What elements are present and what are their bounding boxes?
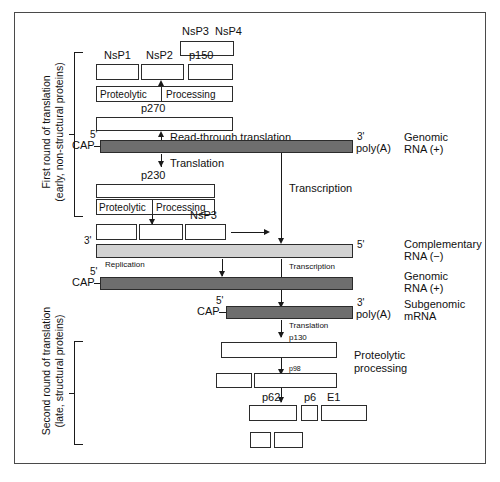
p150-label: p150 (189, 50, 213, 61)
genomic-rna-legend-line1: Genomic (404, 132, 448, 143)
second-round-label-line2: (late, structural proteins) (53, 283, 65, 459)
subgenomic-three-prime: 3' (357, 298, 364, 308)
to-transcription-arrow-shaft (231, 232, 265, 233)
e1-label: E1 (327, 392, 340, 403)
transcription-main-shaft (281, 153, 282, 242)
genomic-rna-legend-line2: RNA (+) (404, 144, 443, 155)
nsp3-lower-label: NsP3 (190, 210, 217, 221)
translation-label: Translation (170, 158, 224, 169)
proteolytic-processing-divider-upper (161, 86, 162, 102)
subgenomic-legend-line1: Subgenomic (404, 299, 465, 310)
p62-box (249, 405, 297, 421)
p6-box (301, 405, 318, 421)
first-round-label-line1: First round of translation (40, 48, 52, 216)
p230-box (96, 184, 215, 198)
nsp3-top-label: NsP3 (182, 26, 209, 37)
genomic-rna-plus-strand (100, 140, 353, 153)
transcription-main-label: Transcription (289, 183, 352, 194)
p98-box (254, 373, 337, 388)
genomic2-cap-label: CAP (72, 277, 95, 288)
lower-cleavage-box-nsp3 (185, 224, 226, 240)
genomic-cap-label: CAP (72, 140, 95, 151)
lower-cleavage-box-2 (139, 224, 183, 240)
genomic2-rna-legend-line2: RNA (+) (404, 283, 443, 294)
p230-label: p230 (141, 170, 165, 181)
p130-box (221, 342, 337, 358)
proteolytic-label-upper: Proteolytic (100, 90, 147, 100)
p150-box (188, 64, 233, 80)
p6-label: p6 (304, 392, 316, 403)
translation-lower-arrow-head (278, 332, 284, 338)
subgenomic-poly-a: poly(A) (356, 309, 391, 320)
nsp1-box (96, 64, 139, 80)
cleavage-small-box (216, 373, 252, 388)
first-round-bracket (74, 52, 83, 217)
nsp2-box (141, 64, 184, 80)
complementary-rna-minus-strand (96, 244, 353, 258)
readthrough-arrow-head (158, 131, 164, 137)
complementary-rna-legend-line1: Complementary (404, 239, 482, 250)
final-product-box-1 (250, 432, 271, 448)
subgenomic-cap-tick (219, 312, 226, 313)
p130-label: p130 (289, 334, 307, 342)
complementary-three-prime: 3' (84, 236, 91, 246)
genomic2-rna-legend-line1: Genomic (404, 271, 448, 282)
translation-arrow-head (158, 161, 164, 167)
subgenomic-cap-label: CAP (197, 306, 220, 317)
genomic-three-prime: 3' (357, 132, 364, 142)
second-round-bracket (74, 341, 83, 445)
subgenomic-mrna-strand (226, 306, 353, 319)
replication-label: Replication (105, 261, 145, 269)
first-round-label-line2: (early, non-structural proteins) (53, 48, 65, 216)
p270-label: p270 (141, 103, 165, 114)
translation-lower-label: Translation (289, 322, 328, 330)
subgenomic-legend-line2: mRNA (404, 311, 436, 322)
p62-label: p62 (262, 392, 280, 403)
to-transcription-arrow-head (264, 229, 270, 235)
nsp2-label: NsP2 (146, 50, 173, 61)
second-round-label-line1: Second round of translation (40, 283, 52, 459)
lower-cleavage-box-1 (96, 224, 137, 240)
complementary-rna-legend-line2: RNA (−) (404, 251, 443, 262)
proteolytic-processing-divider-lower (152, 199, 153, 215)
complementary-five-prime: 5' (357, 240, 364, 250)
final-product-box-2 (274, 432, 303, 448)
genomic-rna-plus-strand-2 (100, 277, 353, 290)
genomic-poly-a: poly(A) (356, 143, 391, 154)
transcription-lower-label: Transcription (289, 263, 335, 271)
proteolytic-processing-legend-line1: Proteolytic (354, 350, 405, 361)
processing-label-upper: Processing (166, 90, 215, 100)
p270-box (96, 117, 233, 131)
e1-box (321, 405, 367, 421)
proteolytic-label-lower: Proteolytic (99, 203, 146, 213)
p98-label: p98 (289, 365, 301, 372)
nsp4-top-label: NsP4 (215, 26, 242, 37)
first-round-bracket-tick (69, 134, 74, 135)
nsp1-label: NsP1 (104, 50, 131, 61)
second-round-bracket-tick (69, 393, 74, 394)
figure-canvas: First round of translation (early, non-s… (0, 0, 500, 482)
proteolytic-processing-legend-line2: processing (354, 363, 407, 374)
